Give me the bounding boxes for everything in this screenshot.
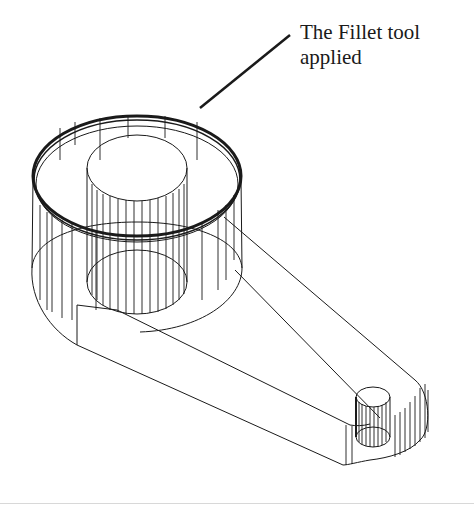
hub-isolines <box>40 116 234 320</box>
bore-isolines <box>92 184 184 314</box>
wireframe-drawing <box>0 0 474 506</box>
small-boss <box>356 387 390 447</box>
callout-leader-line <box>200 35 290 108</box>
callout-label: The Fillet tool applied <box>300 20 420 70</box>
callout-line-2: applied <box>300 45 420 70</box>
bottom-divider <box>0 503 474 504</box>
large-hub-cylinder <box>32 116 242 332</box>
callout-line-1: The Fillet tool <box>300 20 420 45</box>
